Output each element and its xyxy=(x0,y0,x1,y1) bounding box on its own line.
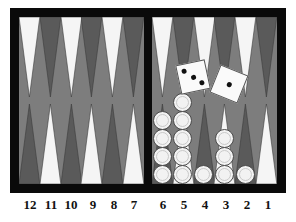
point-top-left-4[interactable] xyxy=(81,17,102,97)
point-label-6: 6 xyxy=(154,196,172,214)
point-label-7: 7 xyxy=(125,196,143,214)
point-label-12: 12 xyxy=(21,196,39,214)
triangle-icon xyxy=(81,17,102,97)
backgammon-board-app: 12 11 10 9 8 7 6 5 4 3 2 1 xyxy=(0,0,296,222)
point-label-10: 10 xyxy=(62,196,80,214)
triangle-icon xyxy=(40,17,61,97)
point-12[interactable] xyxy=(19,104,40,184)
point-9[interactable] xyxy=(81,104,102,184)
board-half-right xyxy=(152,17,277,184)
point-label-11: 11 xyxy=(42,196,60,214)
triangle-icon xyxy=(61,17,82,97)
triangle-icon xyxy=(19,104,40,184)
point-label-9: 9 xyxy=(84,196,102,214)
point-label-2: 2 xyxy=(238,196,256,214)
point-label-8: 8 xyxy=(105,196,123,214)
triangle-icon xyxy=(256,17,277,97)
checker-point6-3[interactable] xyxy=(153,129,172,148)
point-10[interactable] xyxy=(61,104,82,184)
triangle-icon xyxy=(152,17,173,97)
point-11[interactable] xyxy=(40,104,61,184)
checker-point4-1[interactable] xyxy=(194,165,213,184)
pip xyxy=(181,68,187,74)
point-top-left-1[interactable] xyxy=(19,17,40,97)
checker-point3-1[interactable] xyxy=(215,165,234,184)
pip xyxy=(226,81,233,88)
triangle-icon xyxy=(256,104,277,184)
triangle-icon xyxy=(123,104,144,184)
point-1[interactable] xyxy=(256,104,277,184)
triangle-icon xyxy=(81,104,102,184)
point-top-right-1[interactable] xyxy=(152,17,173,97)
point-top-left-3[interactable] xyxy=(61,17,82,97)
point-label-1: 1 xyxy=(259,196,277,214)
point-7[interactable] xyxy=(123,104,144,184)
board-frame xyxy=(10,8,286,193)
center-bar[interactable] xyxy=(144,8,152,193)
triangle-icon xyxy=(61,104,82,184)
triangle-icon xyxy=(123,17,144,97)
point-number-labels: 12 11 10 9 8 7 6 5 4 3 2 1 xyxy=(0,196,296,218)
point-label-4: 4 xyxy=(196,196,214,214)
point-label-5: 5 xyxy=(175,196,193,214)
checker-point6-1[interactable] xyxy=(153,165,172,184)
die-left[interactable] xyxy=(175,59,211,95)
pip xyxy=(190,74,196,80)
checker-point3-3[interactable] xyxy=(215,129,234,148)
checker-point6-4[interactable] xyxy=(153,111,172,130)
board-half-left xyxy=(19,17,144,184)
point-top-left-6[interactable] xyxy=(123,17,144,97)
point-8[interactable] xyxy=(102,104,123,184)
point-top-left-5[interactable] xyxy=(102,17,123,97)
point-label-3: 3 xyxy=(217,196,235,214)
triangle-icon xyxy=(102,17,123,97)
triangle-icon xyxy=(102,104,123,184)
triangle-icon xyxy=(19,17,40,97)
pip xyxy=(199,80,205,86)
checker-point6-2[interactable] xyxy=(153,147,172,166)
point-top-right-6[interactable] xyxy=(256,17,277,97)
checker-point3-2[interactable] xyxy=(215,147,234,166)
point-top-left-2[interactable] xyxy=(40,17,61,97)
triangle-icon xyxy=(40,104,61,184)
checker-point2-1[interactable] xyxy=(236,165,255,184)
